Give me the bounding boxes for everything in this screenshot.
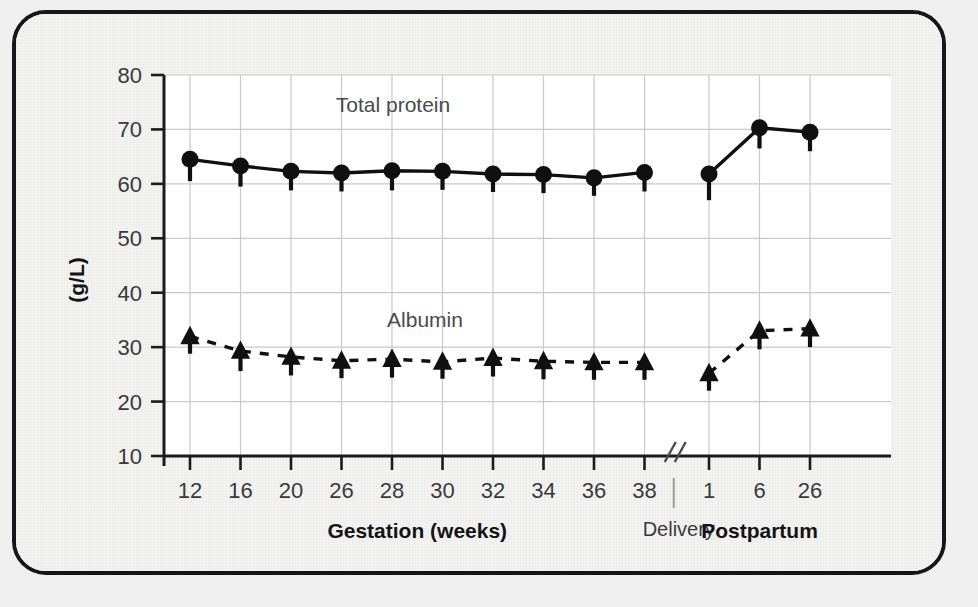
x-axis-tick-label: 28 [380, 478, 404, 503]
x-axis-tick-label: 12 [178, 478, 202, 503]
y-axis-tick-label: 60 [118, 172, 142, 197]
series-annotation-albumin: Albumin [387, 308, 463, 331]
x-axis-tick-label: 1 [703, 478, 715, 503]
data-point-marker-circle [701, 166, 718, 183]
y-axis-tick-label: 70 [118, 117, 142, 142]
x-axis-tick-label: 16 [228, 478, 252, 503]
x-axis-tick-label: 26 [329, 478, 353, 503]
data-point-marker-circle [283, 163, 300, 180]
data-point-marker-circle [802, 124, 819, 141]
x-axis-tick-label: 34 [531, 478, 555, 503]
x-axis-title-gestation: Gestation (weeks) [327, 519, 507, 542]
data-point-marker-circle [384, 162, 401, 179]
plot-area [164, 75, 891, 456]
y-axis-tick-label: 80 [118, 63, 142, 88]
data-point-marker-circle [333, 164, 350, 181]
data-point-marker-circle [535, 166, 552, 183]
x-axis-tick-label: 30 [430, 478, 454, 503]
y-axis-tick-label: 50 [118, 226, 142, 251]
data-point-marker-circle [485, 166, 502, 183]
x-axis-tick-label: 36 [582, 478, 606, 503]
x-axis-title-postpartum: Postpartum [701, 519, 818, 542]
data-point-marker-circle [182, 151, 199, 168]
data-point-marker-circle [232, 157, 249, 174]
data-point-marker-circle [751, 119, 768, 136]
data-point-marker-circle [434, 163, 451, 180]
chart-canvas: 1020304050607080(g/L)1216202628303234363… [0, 0, 966, 597]
x-axis-tick-label: 32 [481, 478, 505, 503]
y-axis-tick-label: 10 [118, 444, 142, 469]
x-axis-tick-label: 20 [279, 478, 303, 503]
data-point-marker-circle [586, 169, 603, 186]
y-axis-tick-label: 30 [118, 335, 142, 360]
y-axis-title: (g/L) [65, 257, 88, 302]
y-axis-tick-label: 40 [118, 281, 142, 306]
x-axis-tick-label: 6 [753, 478, 765, 503]
data-point-marker-circle [636, 164, 653, 181]
series-annotation-total-protein: Total protein [336, 93, 450, 116]
x-axis-tick-label: 38 [632, 478, 656, 503]
y-axis-tick-label: 20 [118, 390, 142, 415]
x-axis-tick-label: 26 [798, 478, 822, 503]
